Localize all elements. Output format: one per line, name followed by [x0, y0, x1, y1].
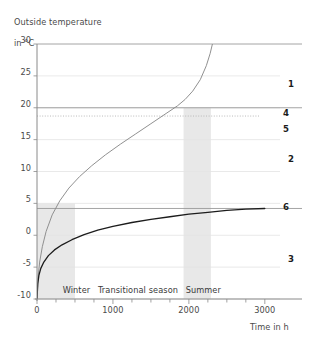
curve-label-6: 6 [283, 202, 289, 212]
y-tick-label-15: 15 [9, 131, 31, 141]
y-tick-label--5: -5 [9, 258, 31, 268]
x-tick-label-3000: 3000 [245, 305, 285, 315]
curve-label-2: 2 [288, 154, 294, 164]
y-tick-label-5: 5 [9, 194, 31, 204]
y-tick-label-25: 25 [9, 67, 31, 77]
season-label-winter: Winter [63, 285, 91, 295]
season-label-summer: Summer [186, 285, 221, 295]
y-tick-label-30: 30 [9, 35, 31, 45]
y-tick-label-10: 10 [9, 163, 31, 173]
curve-label-5: 5 [283, 124, 289, 134]
y-tick-label-0: 0 [9, 226, 31, 236]
reference-lines [37, 44, 302, 208]
y-tick-label--10: -10 [9, 290, 31, 300]
curve-label-1: 1 [288, 79, 294, 89]
curve-label-4: 4 [283, 108, 289, 118]
x-axis-caption: Time in h [250, 322, 289, 332]
y-tick-label-20: 20 [9, 99, 31, 109]
x-tick-label-0: 0 [17, 305, 57, 315]
x-tick-label-2000: 2000 [169, 305, 209, 315]
chart-container: Outside temperature in °C 302520151050-5… [0, 0, 318, 341]
season-label-transitional: Transitional season [98, 285, 178, 295]
curve-label-3: 3 [288, 254, 294, 264]
x-tick-label-1000: 1000 [93, 305, 133, 315]
